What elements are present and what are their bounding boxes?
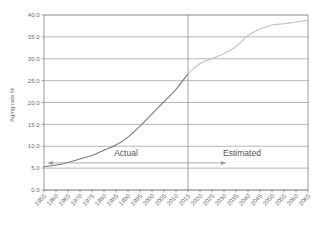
annotation-estimated-label: Estimated [223,148,261,158]
y-tick-label: 40.0 [28,12,40,18]
y-tick-label: 20.0 [28,100,40,106]
y-tick-label: 30.0 [28,56,40,62]
annotation-actual-label: Actual [114,148,138,158]
y-tick-label: 25.0 [28,78,40,84]
y-axis-title-group: Aging rate % [9,87,15,122]
y-tick-label: 15.0 [28,122,40,128]
aging-rate-chart: 0.05.010.015.020.025.030.035.040.0 19551… [0,0,324,225]
y-tick-label: 0.0 [31,187,40,193]
y-axis-title: Aging rate % [9,87,15,122]
y-tick-label: 5.0 [31,165,40,171]
y-tick-label: 35.0 [28,34,40,40]
y-tick-label: 10.0 [28,143,40,149]
chart-canvas: 0.05.010.015.020.025.030.035.040.0 19551… [0,0,324,225]
chart-background [0,0,324,225]
